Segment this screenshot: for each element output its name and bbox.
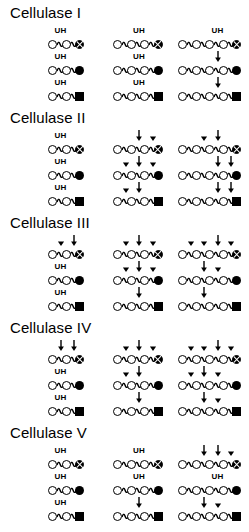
arrowhead-icon	[187, 241, 194, 246]
chain-row: UH	[0, 180, 249, 206]
down-arrow-icon	[136, 261, 143, 272]
terminal-square	[75, 407, 84, 416]
down-arrow-icon	[136, 497, 143, 508]
arrowhead-icon	[149, 241, 156, 246]
sugar-unit	[219, 381, 228, 390]
sugar-unit	[48, 460, 57, 469]
arrowhead-icon	[122, 162, 129, 167]
terminal-square	[154, 512, 163, 521]
chain-row: UH	[0, 364, 249, 390]
down-arrow-icon	[201, 392, 208, 403]
down-arrow-icon	[201, 445, 208, 456]
down-arrow-icon	[71, 235, 78, 246]
sugar-unit	[205, 460, 214, 469]
terminal-square	[154, 92, 163, 101]
sugar-unit	[219, 40, 228, 49]
terminal-cross	[75, 460, 84, 469]
sugar-unit	[178, 197, 187, 206]
terminal-square	[232, 512, 241, 521]
glycan-chain	[113, 495, 163, 521]
sugar-unit	[62, 302, 71, 311]
sugar-unit	[127, 381, 136, 390]
glycan-chain: UH	[48, 128, 84, 154]
chain-row: UH	[0, 259, 249, 285]
sugar-unit	[140, 381, 149, 390]
down-arrow-icon	[214, 51, 221, 62]
sugar-unit	[62, 145, 71, 154]
terminal-square	[232, 302, 241, 311]
down-arrow-icon	[201, 497, 208, 508]
sugar-unit	[219, 197, 228, 206]
sugar-unit	[192, 276, 201, 285]
down-arrow-icon	[201, 366, 208, 377]
sugar-unit	[48, 66, 57, 75]
sugar-unit	[140, 486, 149, 495]
arrowhead-icon	[228, 451, 235, 456]
arrowhead-icon	[201, 346, 208, 351]
glycan-chain	[178, 233, 241, 259]
sugar-unit	[192, 40, 201, 49]
sugar-unit	[48, 355, 57, 364]
sugar-unit	[113, 381, 122, 390]
terminal-square	[232, 197, 241, 206]
sugar-unit	[113, 197, 122, 206]
arrowhead-icon	[122, 267, 129, 272]
sugar-unit	[113, 276, 122, 285]
uh-label: UH	[55, 447, 67, 455]
glycan-chain: UH	[48, 259, 84, 285]
terminal-cross	[75, 250, 84, 259]
sugar-unit	[205, 92, 214, 101]
sugar-unit	[113, 40, 122, 49]
terminal-cross	[75, 355, 84, 364]
sugar-unit	[192, 407, 201, 416]
sugar-unit	[113, 171, 122, 180]
down-arrow-icon	[57, 340, 64, 351]
chain-rows: UHUHUHUHUHUHUH	[0, 23, 249, 101]
glycan-chain	[113, 285, 163, 311]
cellulase-panel: Cellulase IUHUHUHUHUHUHUH	[0, 4, 249, 101]
glycan-chain	[178, 390, 241, 416]
sugar-unit	[62, 40, 71, 49]
sugar-unit	[192, 355, 201, 364]
glycan-chain: UH	[113, 23, 163, 49]
sugar-unit	[127, 486, 136, 495]
sugar-unit	[48, 381, 57, 390]
terminal-cross	[154, 40, 163, 49]
glycan-chain: UH	[48, 364, 84, 390]
sugar-unit	[113, 486, 122, 495]
cellulase-panel: Cellulase IIIUHUH	[0, 214, 249, 311]
sugar-unit	[48, 197, 57, 206]
sugar-unit	[140, 407, 149, 416]
sugar-unit	[48, 92, 57, 101]
sugar-unit	[219, 302, 228, 311]
glycan-chain	[113, 154, 163, 180]
glycan-chain: UH	[178, 469, 241, 495]
arrowhead-icon	[122, 241, 129, 246]
glycan-chain	[113, 390, 163, 416]
sugar-unit	[178, 460, 187, 469]
arrowhead-icon	[201, 136, 208, 141]
sugar-unit	[62, 250, 71, 259]
sugar-unit	[127, 276, 136, 285]
uh-label: UH	[133, 27, 145, 35]
sugar-unit	[48, 171, 57, 180]
sugar-unit	[219, 486, 228, 495]
sugar-unit	[205, 145, 214, 154]
glycan-chain: UH	[48, 23, 84, 49]
chain-row	[0, 233, 249, 259]
down-arrow-icon	[214, 182, 221, 193]
glycan-chain	[113, 259, 163, 285]
figure-root: Cellulase IUHUHUHUHUHUHUHCellulase IIUHU…	[0, 0, 249, 532]
down-arrow-icon	[214, 156, 221, 167]
terminal-solid	[75, 276, 84, 285]
down-arrow-icon	[228, 182, 235, 193]
sugar-unit	[62, 381, 71, 390]
down-arrow-icon	[201, 261, 208, 272]
chain-rows: UHUH	[0, 233, 249, 311]
glycan-chain	[178, 75, 241, 101]
uh-label: UH	[212, 473, 224, 481]
sugar-unit	[192, 486, 201, 495]
terminal-solid	[232, 66, 241, 75]
sugar-unit	[140, 197, 149, 206]
sugar-unit	[219, 66, 228, 75]
